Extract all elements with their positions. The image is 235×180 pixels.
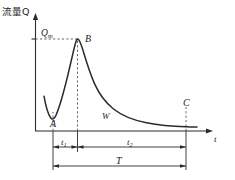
dimension-label-t1: t1 [61,137,67,148]
region-label-w: W [102,111,111,121]
peak-value-label: Qm [41,28,53,39]
dimension-label-total: T [116,155,123,166]
t1-subscript: 1 [64,141,67,148]
t2-subscript: 2 [130,141,134,148]
figure-canvas: 流量Q t Qm A B C W t1 t2 T [0,0,235,180]
label-overlay: 流量Q t Qm A B C W t1 t2 T [0,0,235,180]
y-axis-label: 流量Q [2,6,29,17]
x-axis-label: t [214,134,217,144]
dimension-label-t2: t2 [127,137,134,148]
peak-value-subscript: m [48,32,53,39]
point-label-a: A [49,118,57,129]
point-label-b: B [85,33,91,44]
point-label-c: C [183,97,190,108]
